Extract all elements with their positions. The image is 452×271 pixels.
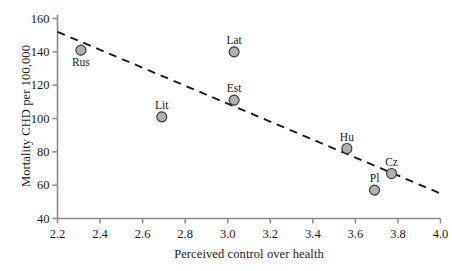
point-label-pl: Pl [355, 172, 395, 184]
x-tick-label: 2.2 [38, 227, 78, 241]
x-tick-label: 2.4 [80, 227, 120, 241]
x-tick-label: 4.0 [421, 227, 452, 241]
axis-ticks [53, 19, 441, 224]
point-label-rus: Rus [61, 56, 101, 68]
point-label-cz: Cz [372, 156, 412, 168]
point-label-lat: Lat [214, 34, 254, 46]
point-label-est: Est [214, 82, 254, 94]
x-tick-label: 3.4 [293, 227, 333, 241]
x-axis-title: Perceived control over health [57, 246, 441, 262]
point-label-lit: Lit [142, 99, 182, 111]
x-tick-label: 3.2 [250, 227, 290, 241]
y-tick-label: 60 [16, 178, 50, 192]
x-tick-label: 3.6 [335, 227, 375, 241]
x-tick-label: 2.8 [165, 227, 205, 241]
x-tick-label: 2.6 [123, 227, 163, 241]
y-tick-label: 100 [16, 112, 50, 126]
point-label-hu: Hu [327, 131, 367, 143]
y-tick-label: 40 [16, 212, 50, 226]
y-tick-label: 160 [16, 12, 50, 26]
y-tick-label: 140 [16, 45, 50, 59]
data-points [76, 45, 397, 195]
y-tick-label: 120 [16, 78, 50, 92]
trendline [58, 32, 441, 194]
scatter-plot-figure: Mortality CHD per 100,000 Perceived cont… [0, 0, 452, 271]
x-tick-label: 3.8 [378, 227, 418, 241]
x-tick-label: 3.0 [208, 227, 248, 241]
y-tick-label: 80 [16, 145, 50, 159]
